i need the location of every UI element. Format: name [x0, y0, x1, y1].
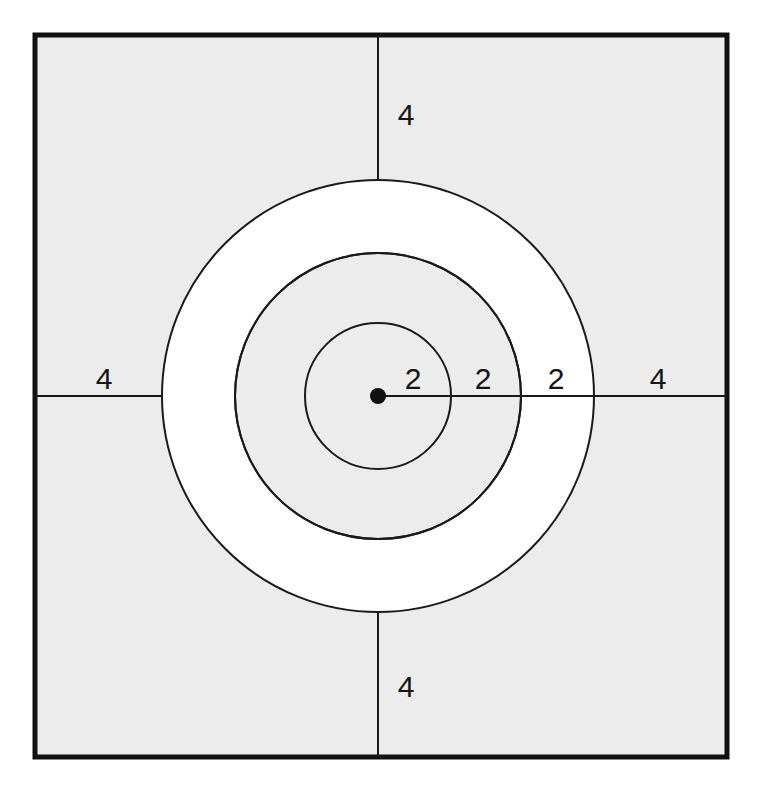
geometry-diagram: 2 2 2 4 4 4 4 — [0, 0, 768, 792]
label-radius-middle: 2 — [475, 362, 492, 395]
label-right-4: 4 — [650, 362, 667, 395]
label-left-4: 4 — [96, 362, 113, 395]
label-radius-outer: 2 — [548, 362, 565, 395]
center-point — [370, 388, 386, 404]
figure-canvas: 2 2 2 4 4 4 4 — [0, 0, 768, 792]
label-radius-inner: 2 — [405, 362, 422, 395]
label-bottom-4: 4 — [398, 670, 415, 703]
label-top-4: 4 — [398, 98, 415, 131]
